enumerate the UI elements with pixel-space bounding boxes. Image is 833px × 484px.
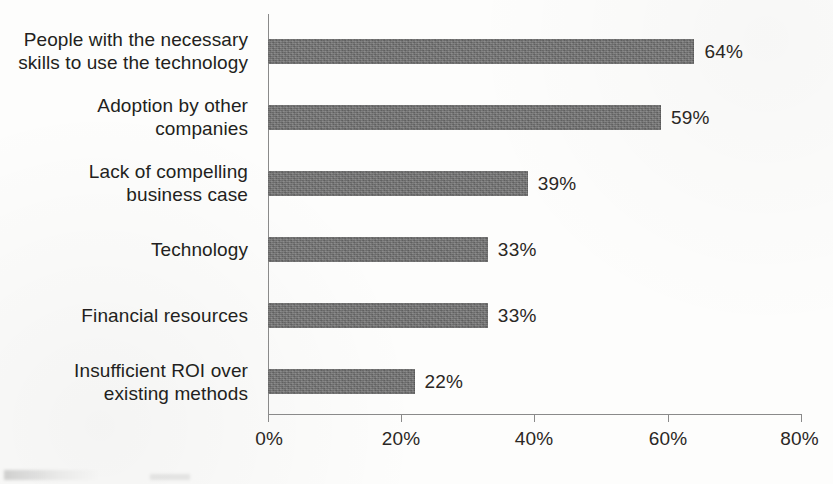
bar-0[interactable] [268, 39, 694, 64]
x-tick-4 [801, 414, 802, 422]
category-label-line: existing methods [0, 382, 248, 405]
category-label-3: Technology [0, 238, 248, 261]
x-tick-label-1: 20% [382, 428, 421, 450]
scan-artifact [150, 474, 190, 480]
category-label-5: Insufficient ROI over existing methods [0, 359, 248, 405]
category-label-0: People with the necessary skills to use … [0, 28, 248, 74]
bar-2[interactable] [268, 171, 528, 196]
bar-value-label-0: 64% [704, 41, 743, 63]
bar-chart: People with the necessary skills to use … [0, 0, 833, 484]
bar-value-label-5: 22% [425, 371, 464, 393]
category-label-line: Financial resources [0, 304, 248, 327]
category-label-line: skills to use the technology [0, 51, 248, 74]
bar-3[interactable] [268, 237, 488, 262]
x-tick-label-0: 0% [255, 428, 283, 450]
x-tick-label-2: 40% [515, 428, 554, 450]
bar-value-label-4: 33% [498, 305, 537, 327]
bar-1[interactable] [268, 105, 661, 130]
x-tick-2 [534, 414, 535, 422]
x-tick-label-4: 80% [780, 428, 819, 450]
category-label-line: Lack of compelling [0, 160, 248, 183]
x-tick-3 [668, 414, 669, 422]
category-label-line: Insufficient ROI over [0, 359, 248, 382]
category-label-4: Financial resources [0, 304, 248, 327]
bar-value-label-2: 39% [538, 173, 577, 195]
bar-5[interactable] [268, 369, 415, 394]
category-label-line: Technology [0, 238, 248, 261]
y-axis-line [268, 14, 269, 414]
x-tick-label-3: 60% [649, 428, 688, 450]
category-label-line: companies [0, 117, 248, 140]
bar-value-label-3: 33% [498, 239, 537, 261]
bar-4[interactable] [268, 303, 488, 328]
scan-artifact [4, 470, 100, 480]
category-label-line: People with the necessary [0, 28, 248, 51]
category-label-2: Lack of compelling business case [0, 160, 248, 206]
x-tick-0 [268, 414, 269, 422]
category-label-line: Adoption by other [0, 94, 248, 117]
x-tick-1 [401, 414, 402, 422]
bar-value-label-1: 59% [671, 107, 710, 129]
category-label-line: business case [0, 183, 248, 206]
category-label-1: Adoption by other companies [0, 94, 248, 140]
plot-area: 0% 20% 40% 60% 80% 64% 59% 39% 33% 33% 2 [268, 14, 801, 414]
